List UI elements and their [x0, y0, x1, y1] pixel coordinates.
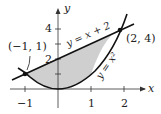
y-tick-label: 2 [45, 54, 52, 65]
x-tick-label: −1 [17, 98, 33, 109]
pointer-arrow-icon [27, 56, 30, 70]
x-tick-label: 2 [121, 98, 128, 109]
x-tick-label: 1 [88, 98, 95, 109]
x-axis-arrow-icon [140, 87, 146, 92]
intersection-point [23, 72, 28, 77]
point-label-a: (−1, 1) [8, 41, 47, 52]
intersection-point [118, 28, 123, 33]
x-axis-label: x [148, 83, 154, 94]
y-axis-arrow-icon [56, 8, 61, 14]
y-tick-label: 4 [45, 23, 52, 34]
y-axis-label: y [64, 3, 70, 14]
point-label-b: (2, 4) [126, 33, 156, 44]
